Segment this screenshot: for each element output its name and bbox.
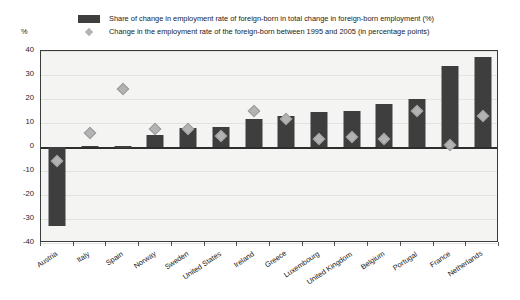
- x-axis-category-label: Norway: [132, 249, 158, 270]
- legend-label-bar-series: Share of change in employment rate of fo…: [109, 14, 434, 23]
- category-slot: [237, 51, 270, 241]
- y-axis-unit-label: %: [21, 27, 28, 36]
- bar: [114, 146, 131, 148]
- x-axis-category-label: Austria: [35, 249, 59, 269]
- x-axis-category-label: Sweden: [163, 249, 190, 271]
- y-axis-tick-label: -10: [0, 165, 34, 174]
- category-slot: [74, 51, 107, 241]
- bar: [82, 146, 99, 148]
- x-axis-tick-mark: [171, 242, 172, 246]
- x-axis-category-label: Greece: [263, 249, 288, 270]
- chart-legend: Share of change in employment rate of fo…: [78, 13, 508, 39]
- x-axis-tick-mark: [367, 242, 368, 246]
- category-slot: [270, 51, 303, 241]
- x-axis-tick-mark: [204, 242, 205, 246]
- x-axis-category-label: Belgium: [359, 249, 386, 271]
- diamond-marker: [149, 123, 162, 136]
- x-axis-tick-mark: [400, 242, 401, 246]
- y-axis-tick-label: 20: [0, 93, 34, 102]
- x-axis-category-label: France: [428, 249, 452, 269]
- category-slot: [41, 51, 74, 241]
- y-axis-tick-label: -30: [0, 213, 34, 222]
- x-axis-category-label: Ireland: [232, 249, 256, 269]
- y-axis-tick-label: -20: [0, 189, 34, 198]
- y-axis-tick-label: 10: [0, 117, 34, 126]
- x-axis-tick-mark: [73, 242, 74, 246]
- x-axis-tick-mark: [40, 242, 41, 246]
- x-axis-category-label: Italy: [75, 249, 91, 264]
- diamond-marker: [84, 126, 97, 139]
- legend-item-diamond-series: Change in the employment rate of the for…: [78, 26, 508, 37]
- legend-item-bar-series: Share of change in employment rate of fo…: [78, 13, 508, 24]
- x-axis-tick-mark: [236, 242, 237, 246]
- chart-figure: Share of change in employment rate of fo…: [0, 0, 520, 300]
- x-axis-tick-mark: [465, 242, 466, 246]
- category-slot: [368, 51, 401, 241]
- x-axis-category-label: Spain: [104, 249, 125, 267]
- category-slot: [466, 51, 499, 241]
- category-slot: [139, 51, 172, 241]
- x-axis-category-label: Portugal: [391, 249, 419, 272]
- legend-label-diamond-series: Change in the employment rate of the for…: [109, 27, 429, 36]
- x-axis-category-label: Netherlands: [446, 249, 484, 279]
- x-axis-tick-mark: [334, 242, 335, 246]
- y-axis-tick-label: 0: [0, 141, 34, 150]
- bar: [474, 57, 491, 147]
- category-slot: [106, 51, 139, 241]
- diamond-marker: [116, 83, 129, 96]
- x-axis-tick-mark: [138, 242, 139, 246]
- bar: [147, 135, 164, 147]
- x-axis-tick-mark: [433, 242, 434, 246]
- category-slot: [172, 51, 205, 241]
- bar: [245, 119, 262, 147]
- bar-swatch-icon: [78, 15, 100, 23]
- category-slot: [401, 51, 434, 241]
- data-series-container: [41, 51, 497, 241]
- x-axis-tick-mark: [105, 242, 106, 246]
- x-axis-tick-mark: [498, 242, 499, 246]
- category-slot: [335, 51, 368, 241]
- y-axis-tick-label: 40: [0, 45, 34, 54]
- x-axis-tick-mark: [302, 242, 303, 246]
- plot-area: [40, 50, 498, 242]
- diamond-swatch-icon: [78, 29, 100, 35]
- category-slot: [205, 51, 238, 241]
- y-axis-tick-label: 30: [0, 69, 34, 78]
- x-axis-tick-mark: [269, 242, 270, 246]
- diamond-marker: [247, 105, 260, 118]
- category-slot: [303, 51, 336, 241]
- category-slot: [434, 51, 467, 241]
- bar: [441, 66, 458, 147]
- y-axis-tick-label: -40: [0, 237, 34, 246]
